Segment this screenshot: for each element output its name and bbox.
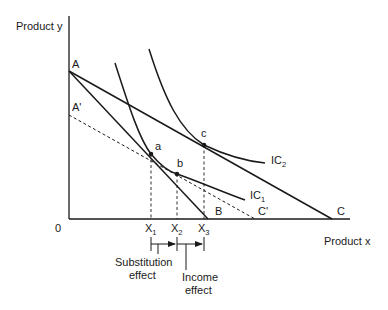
label-C: C: [337, 205, 345, 217]
indifference-curve-1: [115, 63, 245, 200]
income-effect-label-line1: Income: [182, 271, 218, 283]
indifference-curve-2: [149, 49, 265, 163]
tick-X1: X1: [145, 222, 157, 237]
budget-line-AB: [69, 71, 208, 219]
budget-line-A-prime-C-prime: [69, 115, 255, 219]
point-b-marker: [175, 172, 180, 177]
indifference-curve-diagram: Product y Product x 0 A A' a b c B C' C …: [0, 0, 388, 310]
label-c: c: [201, 127, 207, 139]
label-A-prime: A': [72, 101, 81, 113]
point-c-marker: [202, 143, 207, 148]
tick-X3: X3: [198, 222, 210, 237]
label-b: b: [177, 157, 183, 169]
origin-label: 0: [55, 222, 61, 234]
x-axis-label: Product x: [324, 235, 371, 247]
label-a: a: [155, 140, 162, 152]
label-B: B: [215, 205, 222, 217]
label-IC2: IC2: [271, 154, 286, 169]
y-axis-label: Product y: [16, 20, 63, 32]
income-effect-bracket: [177, 237, 204, 270]
substitution-effect-bracket: [151, 237, 177, 254]
substitution-effect-label-line1: Substitution: [115, 256, 172, 268]
substitution-effect-label-line2: effect: [129, 269, 156, 281]
axes: [69, 16, 350, 219]
budget-line-AC: [69, 71, 332, 219]
point-a-marker: [149, 152, 154, 157]
label-IC1: IC1: [250, 189, 265, 204]
tick-X2: X2: [171, 222, 183, 237]
label-C-prime: C': [258, 205, 268, 217]
income-effect-label-line2: effect: [185, 284, 212, 296]
label-A: A: [72, 58, 80, 70]
